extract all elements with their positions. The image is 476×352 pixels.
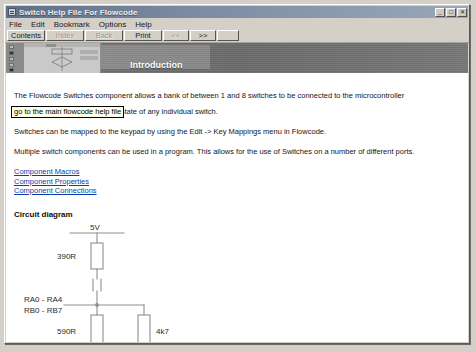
toolbar: Contents Index Back Print << >> — [5, 30, 469, 43]
circuit-label-r-mid: 590R — [57, 327, 76, 336]
menu-item-file[interactable]: File — [9, 20, 22, 29]
maximize-button[interactable]: □ — [446, 8, 456, 17]
toolbar-print-button[interactable]: Print — [124, 30, 162, 41]
close-button[interactable]: ✕ — [457, 8, 467, 17]
menu-item-options[interactable]: Options — [99, 20, 127, 29]
section-title-circuit-diagram: Circuit diagram — [14, 210, 460, 219]
link-component-connections[interactable]: Component Connections — [14, 186, 460, 196]
toolbar-spare-button — [217, 30, 239, 41]
circuit-label-r-right: 4k7 — [156, 327, 169, 336]
toolbar-prev-button[interactable]: << — [163, 30, 189, 41]
page-banner: Introduction — [6, 43, 468, 73]
link-component-macros[interactable]: Component Macros — [14, 167, 460, 177]
circuit-label-port-rb: RB0 - RB7 — [24, 306, 63, 315]
circuit-label-port-ra: RA0 - RA4 — [24, 295, 63, 304]
banner-toolbar-strip — [6, 43, 24, 73]
window-title: Switch Help File For Flowcode — [19, 8, 435, 17]
help-content-pane: Introduction go to the main flowcode hel… — [6, 43, 468, 342]
paragraph-4: Multiple switch components can be used i… — [14, 147, 460, 157]
paragraph-1: The Flowcode Switches component allows a… — [14, 91, 460, 101]
minimize-button[interactable]: _ — [435, 8, 445, 17]
circuit-diagram: 5V 390R RA0 - RA4 RB0 - RB7 590R 4k7 — [24, 223, 204, 343]
related-links: Component Macros Component Properties Co… — [14, 167, 460, 196]
toolbar-contents-button[interactable]: Contents — [7, 30, 45, 41]
desktop-background: Switch Help File For Flowcode _ □ ✕ File… — [0, 0, 476, 352]
toolbar-next-button[interactable]: >> — [190, 30, 216, 41]
tooltip: go to the main flowcode help file — [11, 106, 124, 118]
window-controls: _ □ ✕ — [435, 8, 467, 17]
help-window: Switch Help File For Flowcode _ □ ✕ File… — [4, 4, 470, 344]
circuit-label-supply: 5V — [90, 223, 100, 232]
link-component-properties[interactable]: Component Properties — [14, 177, 460, 187]
menu-item-help[interactable]: Help — [135, 20, 151, 29]
page-title: Introduction — [130, 60, 183, 70]
toolbar-back-button[interactable]: Back — [85, 30, 123, 41]
flowchart-thumbnail[interactable] — [24, 43, 101, 73]
menu-item-bookmark[interactable]: Bookmark — [54, 20, 90, 29]
circuit-label-r-top: 390R — [57, 252, 76, 261]
menubar: File Edit Bookmark Options Help — [5, 19, 469, 30]
toolbar-index-button[interactable]: Index — [46, 30, 84, 41]
window-titlebar[interactable]: Switch Help File For Flowcode _ □ ✕ — [6, 6, 468, 18]
menu-item-edit[interactable]: Edit — [31, 20, 45, 29]
help-book-icon — [8, 8, 16, 16]
paragraph-3: Switches can be mapped to the keypad by … — [14, 127, 460, 137]
